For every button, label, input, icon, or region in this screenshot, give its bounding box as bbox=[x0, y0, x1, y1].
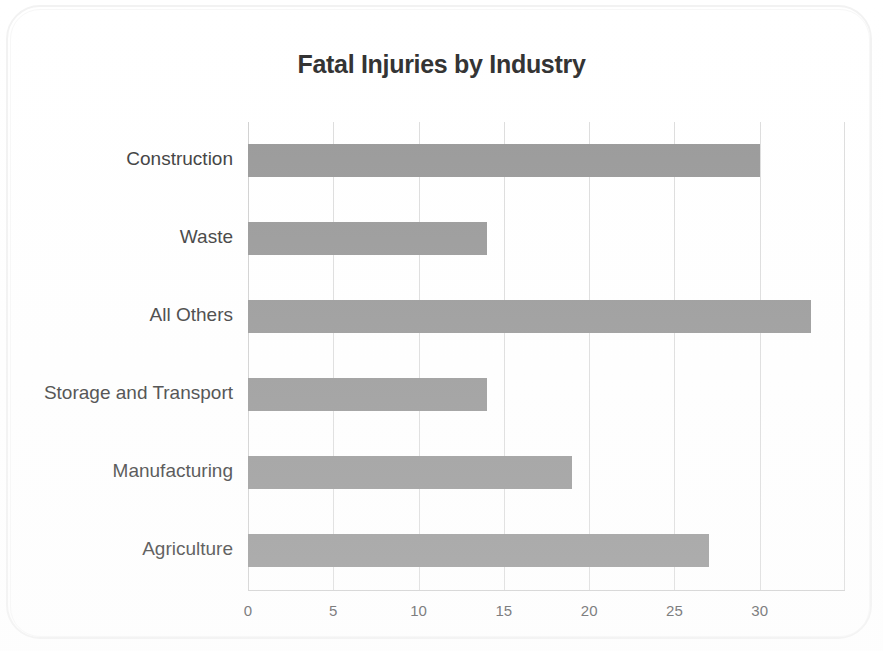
x-tick-5: 5 bbox=[313, 602, 353, 619]
x-tick-20: 20 bbox=[569, 602, 609, 619]
bar-agriculture[interactable] bbox=[248, 534, 709, 567]
category-label-waste: Waste bbox=[0, 226, 233, 248]
bar-all-others[interactable] bbox=[248, 300, 811, 333]
x-tick-25: 25 bbox=[654, 602, 694, 619]
x-tick-30: 30 bbox=[740, 602, 780, 619]
plot-area bbox=[248, 122, 845, 590]
gridline-25 bbox=[674, 122, 675, 590]
gridline-20 bbox=[589, 122, 590, 590]
category-label-storage-and-transport: Storage and Transport bbox=[0, 382, 233, 404]
bar-manufacturing[interactable] bbox=[248, 456, 572, 489]
gridline-5 bbox=[333, 122, 334, 590]
category-label-all-others: All Others bbox=[0, 304, 233, 326]
bar-chart: Fatal Injuries by Industry ConstructionW… bbox=[0, 0, 883, 651]
category-label-agriculture: Agriculture bbox=[0, 538, 233, 560]
gridline-30 bbox=[760, 122, 761, 590]
gridline-10 bbox=[419, 122, 420, 590]
gridline-0 bbox=[248, 122, 249, 590]
gridline-15 bbox=[504, 122, 505, 590]
x-axis-baseline bbox=[248, 590, 845, 591]
x-tick-15: 15 bbox=[484, 602, 524, 619]
bar-waste[interactable] bbox=[248, 222, 487, 255]
plot-right-edge bbox=[844, 122, 845, 590]
category-label-construction: Construction bbox=[0, 148, 233, 170]
bar-construction[interactable] bbox=[248, 144, 760, 177]
x-tick-0: 0 bbox=[228, 602, 268, 619]
chart-title: Fatal Injuries by Industry bbox=[0, 50, 883, 79]
x-tick-10: 10 bbox=[399, 602, 439, 619]
category-label-manufacturing: Manufacturing bbox=[0, 460, 233, 482]
bar-storage-and-transport[interactable] bbox=[248, 378, 487, 411]
